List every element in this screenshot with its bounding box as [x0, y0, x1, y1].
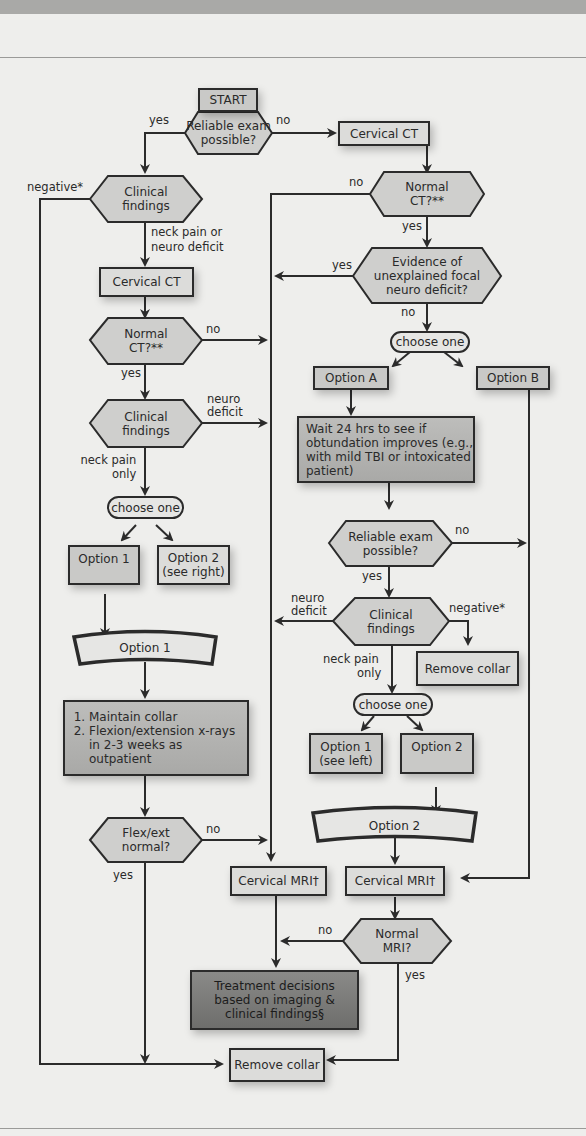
edge-label-yes: yes [149, 114, 169, 127]
label: Cervical CT [350, 127, 418, 141]
line: Option 1 [320, 740, 372, 754]
line: unexplained focal [374, 269, 480, 283]
line: Clinical [124, 410, 167, 424]
start-label: START [209, 93, 246, 107]
label: choose one [396, 335, 465, 349]
edge-label-no: no [276, 114, 290, 127]
flex-ext-text: Flex/extnormal? [90, 818, 202, 862]
line: Reliable exam [348, 530, 433, 544]
line: Clinical [369, 608, 412, 622]
edge-label-yes: yes [402, 220, 422, 233]
line: Flex/ext [122, 826, 170, 840]
line: only [78, 467, 136, 481]
edge-label-yes: yes [113, 869, 133, 882]
label: Option B [487, 371, 539, 385]
option-a-box: Option A [313, 366, 389, 390]
edge-label-yes: yes [362, 570, 382, 583]
label: Cervical MRI† [238, 874, 318, 888]
edge-label-no: no [455, 524, 469, 537]
edge-label-yes: yes [405, 969, 425, 982]
remove-collar-right-box: Remove collar [416, 651, 519, 686]
normal-mri-text: NormalMRI? [343, 919, 451, 963]
cervical-mri-right-box: Cervical MRI† [345, 866, 445, 896]
maintain-collar-box: Maintain collar Flexion/extension x-rays… [63, 700, 249, 776]
cervical-mri-left-box: Cervical MRI† [230, 866, 327, 896]
line: MRI? [383, 941, 412, 955]
step-item: Flexion/extension x-rays in 2-3 weeks as… [89, 724, 247, 766]
line: Option 2 [168, 551, 220, 565]
line: (see right) [162, 565, 224, 579]
line: Evidence of [392, 255, 462, 269]
line: possible? [363, 544, 419, 558]
evidence-focal-text: Evidence ofunexplained focalneuro defici… [353, 248, 501, 303]
edge-label-no: no [401, 306, 415, 319]
line: neck pain [80, 453, 136, 467]
line: neuro [291, 591, 324, 605]
edge-label-no: no [349, 176, 363, 189]
step-item: Maintain collar [89, 710, 247, 724]
label: Wait 24 hrs to see if obtundation improv… [306, 422, 473, 478]
label: Option 2 [411, 740, 463, 754]
line: possible? [201, 133, 257, 147]
remove-collar-bottom-box: Remove collar [229, 1048, 325, 1082]
line: neuro [207, 392, 240, 406]
option-2-mid-box: Option 2 [400, 733, 474, 774]
line: neuro deficit [151, 240, 223, 254]
option-2-banner-label: Option 2 [313, 812, 476, 840]
reliable-exam-1-text: Reliable exampossible? [185, 112, 272, 154]
edge-label-no: no [206, 823, 220, 836]
wait-24-box: Wait 24 hrs to see if obtundation improv… [297, 416, 475, 483]
edge-label-yes: yes [121, 367, 141, 380]
line: Normal [375, 927, 418, 941]
edge-label-neck-pain-or-neuro: neck pain orneuro deficit [151, 225, 223, 255]
choose-one-right: choose one [390, 331, 470, 353]
label: Cervical CT [113, 275, 181, 289]
label: Remove collar [425, 662, 510, 676]
line: CT?** [129, 341, 163, 355]
option-1-mid-box: Option 1(see left) [309, 733, 383, 774]
label: Cervical MRI† [355, 874, 435, 888]
line: Normal [405, 180, 448, 194]
clinical-findings-2-text: Clinicalfindings [90, 400, 202, 447]
line: (see left) [319, 754, 373, 768]
cervical-ct-left-box: Cervical CT [99, 267, 194, 297]
line: Normal [124, 327, 167, 341]
line: normal? [122, 840, 170, 854]
line: findings [122, 199, 170, 213]
option-b-box: Option B [476, 366, 550, 390]
line: Reliable exam [186, 119, 271, 133]
option-1-banner-label: Option 1 [74, 634, 216, 662]
edge-label-neuro-deficit: neurodeficit [207, 393, 243, 419]
line: Treatment decisions [214, 979, 335, 993]
label: Option 2 [369, 819, 421, 833]
edge-label-neck-pain-only: neck painonly [78, 453, 136, 481]
label: Remove collar [234, 1058, 319, 1072]
normal-ct-left-text: NormalCT?** [90, 318, 202, 364]
clinical-findings-1-text: Clinicalfindings [90, 176, 202, 222]
line: findings [367, 622, 415, 636]
line: CT?** [410, 194, 444, 208]
edge-label-no: no [206, 323, 220, 336]
edge-label-neuro-deficit: neurodeficit [291, 592, 327, 618]
edge-label-negative: negative* [449, 602, 505, 615]
choose-one-mid: choose one [353, 693, 433, 716]
edge-label-neck-pain-only: neck painonly [323, 652, 381, 680]
label: choose one [359, 698, 428, 712]
maintain-steps-list: Maintain collar Flexion/extension x-rays… [69, 710, 247, 766]
line: neck pain or [151, 225, 222, 239]
cervical-ct-right-box: Cervical CT [338, 121, 430, 146]
start-box: START [198, 88, 258, 112]
line: deficit [291, 604, 327, 618]
edge-label-no: no [318, 924, 332, 937]
normal-ct-right-text: NormalCT?** [370, 172, 484, 216]
label: Option 1 [119, 641, 171, 655]
choose-one-left: choose one [107, 496, 184, 519]
line: neuro deficit? [386, 283, 468, 297]
line: deficit [207, 405, 243, 419]
edge-label-yes: yes [332, 259, 352, 272]
label: Option 1 [78, 552, 130, 566]
edge-label-negative: negative* [27, 181, 83, 194]
option-1-left-box: Option 1 [68, 545, 140, 585]
line: only [323, 666, 381, 680]
reliable-exam-2-text: Reliable exampossible? [329, 521, 452, 566]
